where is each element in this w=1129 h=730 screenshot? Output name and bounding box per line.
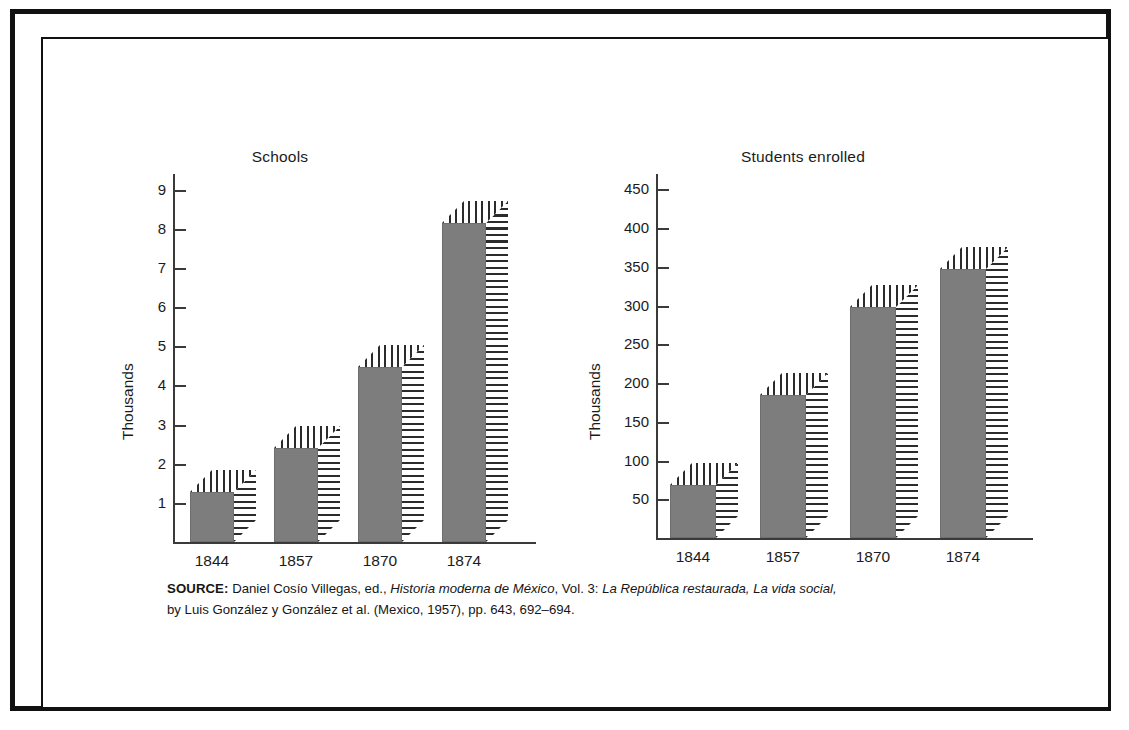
bar-front-face xyxy=(940,269,986,538)
bar-front-face xyxy=(850,307,896,538)
y-axis-tick-label: 200 xyxy=(619,374,649,391)
source-text-b: , Vol. 3: xyxy=(554,581,602,596)
y-axis-tick xyxy=(175,425,186,427)
bar-1870 xyxy=(358,345,424,542)
bar-1857 xyxy=(274,426,340,542)
x-axis-category-label-1874: 1874 xyxy=(929,548,997,566)
y-axis-tick xyxy=(658,461,669,463)
bar-1874 xyxy=(940,247,1008,538)
bar-front-face xyxy=(274,448,318,542)
x-axis-category-label-1857: 1857 xyxy=(262,552,330,570)
source-note: SOURCE: Daniel Cosío Villegas, ed., Hist… xyxy=(167,578,957,621)
y-axis-tick xyxy=(658,267,669,269)
y-axis-tick-label: 100 xyxy=(619,452,649,469)
bar-front-face xyxy=(670,485,716,538)
y-axis-tick-label: 150 xyxy=(619,413,649,430)
chart-panel-schools: Schools Thousands 1234567891844185718701… xyxy=(108,140,548,560)
bar-front-face xyxy=(760,395,806,538)
y-axis-tick-label: 250 xyxy=(619,335,649,352)
x-axis-category-label-1844: 1844 xyxy=(659,548,727,566)
y-axis-tick xyxy=(175,464,186,466)
plot-area-students: 5010015020025030035040045018441857187018… xyxy=(578,140,1048,560)
y-axis-tick xyxy=(175,346,186,348)
y-axis-tick xyxy=(175,268,186,270)
plot-area-schools: 1234567891844185718701874 xyxy=(108,140,548,560)
bar-1844 xyxy=(190,470,256,542)
x-axis-category-label-1874: 1874 xyxy=(430,552,498,570)
source-label: SOURCE: xyxy=(167,581,229,596)
chart-panel-students: Students enrolled Thousands 501001502002… xyxy=(578,140,1048,560)
y-axis-tick-label: 300 xyxy=(619,297,649,314)
bar-side-face xyxy=(896,285,918,538)
y-axis-tick-label: 1 xyxy=(150,494,166,511)
x-axis-category-label-1870: 1870 xyxy=(839,548,907,566)
y-axis-tick xyxy=(658,499,669,501)
y-axis-tick-label: 2 xyxy=(150,455,166,472)
source-text-line2: by Luis González y González et al. (Mexi… xyxy=(167,602,575,617)
figure-root: Schools Thousands 1234567891844185718701… xyxy=(0,0,1129,730)
y-axis-tick-label: 5 xyxy=(150,337,166,354)
y-axis-tick xyxy=(658,344,669,346)
bar-side-face xyxy=(486,201,508,542)
x-axis-category-label-1870: 1870 xyxy=(346,552,414,570)
y-axis-tick xyxy=(658,189,669,191)
y-axis-tick xyxy=(175,385,186,387)
x-axis-line xyxy=(656,538,1033,540)
bar-front-face xyxy=(190,492,234,542)
bar-front-face xyxy=(358,367,402,542)
bar-1844 xyxy=(670,463,738,538)
source-title-2: La República restaurada, La vida social, xyxy=(602,581,837,596)
y-axis-tick xyxy=(175,229,186,231)
bar-side-face xyxy=(402,345,424,542)
y-axis-tick xyxy=(658,228,669,230)
y-axis-tick-label: 350 xyxy=(619,258,649,275)
y-axis-tick-label: 6 xyxy=(150,298,166,315)
y-axis-tick xyxy=(175,503,186,505)
y-axis-tick-label: 7 xyxy=(150,259,166,276)
source-title-1: Historia moderna de México xyxy=(390,581,554,596)
bar-1870 xyxy=(850,285,918,538)
bar-front-face xyxy=(442,223,486,542)
bar-1857 xyxy=(760,373,828,538)
y-axis-tick-label: 3 xyxy=(150,416,166,433)
y-axis-tick-label: 8 xyxy=(150,220,166,237)
y-axis-tick xyxy=(658,422,669,424)
y-axis-tick xyxy=(175,190,186,192)
bar-side-face xyxy=(986,247,1008,538)
y-axis-tick-label: 400 xyxy=(619,219,649,236)
y-axis-tick-label: 50 xyxy=(619,490,649,507)
x-axis-category-label-1844: 1844 xyxy=(178,552,246,570)
source-text-a: Daniel Cosío Villegas, ed., xyxy=(229,581,391,596)
y-axis-tick-label: 4 xyxy=(150,376,166,393)
bar-side-face xyxy=(806,373,828,538)
y-axis-tick xyxy=(658,383,669,385)
x-axis-category-label-1857: 1857 xyxy=(749,548,817,566)
bar-1874 xyxy=(442,201,508,542)
y-axis-tick xyxy=(175,307,186,309)
y-axis-tick xyxy=(658,306,669,308)
y-axis-tick-label: 9 xyxy=(150,181,166,198)
x-axis-line xyxy=(173,542,536,544)
y-axis-tick-label: 450 xyxy=(619,180,649,197)
